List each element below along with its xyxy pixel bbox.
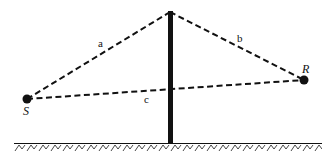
label-a: a [98, 37, 103, 49]
barrier-pole [168, 11, 173, 143]
label-b: b [237, 32, 243, 44]
path-c [27, 80, 304, 99]
path-b [170, 12, 304, 80]
label-c: c [144, 93, 149, 105]
label-receiver: R [301, 62, 310, 76]
label-source: S [23, 104, 29, 118]
path-a [27, 12, 170, 99]
diagram-canvas: a b c S R [0, 0, 331, 159]
source-point [23, 95, 32, 104]
receiver-point [300, 76, 309, 85]
ground [14, 144, 322, 153]
ground-hatching [14, 144, 322, 152]
